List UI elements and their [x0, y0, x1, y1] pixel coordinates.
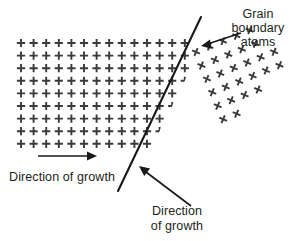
- growth-left-label: Direction of growth: [9, 170, 115, 184]
- grain-boundary-label-line2: boundary: [232, 21, 286, 35]
- grain-boundary-label-line3: atoms: [241, 35, 276, 49]
- diagram-canvas: Direction of growth Grain boundary atoms…: [0, 0, 297, 241]
- growth-bottom-label-line1: Direction: [152, 204, 202, 218]
- grain-boundary-figure: Direction of growth Grain boundary atoms…: [0, 0, 297, 241]
- grain-boundary-label-line1: Grain: [242, 7, 273, 21]
- growth-bottom-label-line2: of growth: [151, 219, 203, 233]
